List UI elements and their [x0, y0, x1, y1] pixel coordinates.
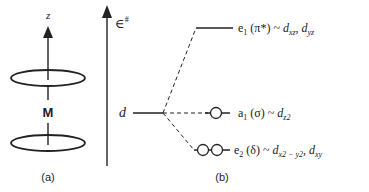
energy-label: ∈# — [115, 15, 129, 31]
orbital-diagram: z M (a) ∈# d e1 (π*) ~ dxz, dyz a1 (σ) ~… — [0, 0, 369, 192]
a1-label: a1 (σ) ~ dz2 — [238, 106, 290, 122]
metal-label: M — [43, 105, 54, 120]
d-label: d — [119, 105, 127, 120]
energy-arrowhead-icon — [102, 5, 112, 18]
caption-b: (b) — [215, 171, 228, 183]
z-arrowhead-icon — [43, 26, 53, 38]
connector-e2 — [163, 113, 194, 150]
caption-a: (a) — [41, 171, 54, 183]
panel-b: ∈# d e1 (π*) ~ dxz, dyz a1 (σ) ~ dz2 e2 … — [102, 5, 323, 183]
e1-label: e1 (π*) ~ dxz, dyz — [238, 21, 315, 37]
e2-orbital-circle-1-icon — [198, 145, 209, 156]
panel-a: z M (a) — [11, 9, 85, 183]
a1-orbital-circle-icon — [211, 108, 222, 119]
e2-orbital-circle-2-icon — [212, 145, 223, 156]
e2-label: e2 (δ) ~ dx2 − y2, dxy — [234, 143, 323, 159]
connector-e1 — [163, 28, 196, 113]
z-axis-label: z — [45, 9, 51, 21]
